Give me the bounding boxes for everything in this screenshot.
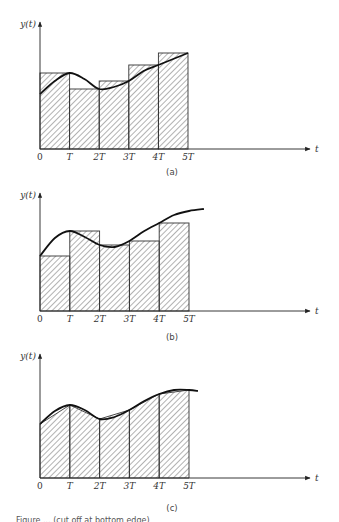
x-tick-label: T — [67, 152, 74, 162]
x-tick-label: 0 — [37, 481, 43, 491]
x-tick-label: 4T — [152, 152, 166, 162]
panel-b: y(t)t0T2T3T4T5T — [19, 190, 319, 324]
hatched-rectangle — [99, 81, 129, 149]
panel-a: y(t)t0T2T3T4T5T — [19, 19, 319, 162]
x-axis-label: t — [315, 144, 319, 154]
hatched-trapezoid — [100, 410, 130, 478]
y-axis-label: y(t) — [19, 351, 36, 361]
hatched-rectangle — [40, 73, 70, 149]
panel-c: y(t)t0T2T3T4T5T — [19, 351, 319, 491]
x-tick-label: 2T — [93, 481, 107, 491]
x-tick-label: T — [67, 314, 74, 324]
hatched-rectangle — [158, 53, 188, 149]
hatched-rectangle — [129, 241, 159, 311]
x-tick-label: 2T — [92, 152, 106, 162]
y-axis-label: y(t) — [19, 19, 36, 29]
x-tick-label: 3T — [124, 481, 137, 491]
panel-a-label: (a) — [166, 167, 178, 177]
x-tick-label: 5T — [182, 152, 195, 162]
hatched-rectangle — [40, 256, 70, 311]
x-tick-label: 5T — [183, 481, 196, 491]
hatched-trapezoid — [40, 405, 70, 478]
x-tick-label: 4T — [152, 314, 166, 324]
figure: y(t)t0T2T3T4T5T (a) y(t)t0T2T3T4T5T (b) … — [0, 0, 339, 522]
hatched-trapezoid — [159, 390, 189, 478]
x-axis-label: t — [315, 306, 319, 316]
x-tick-label: 3T — [124, 314, 137, 324]
hatched-rectangle — [100, 245, 130, 311]
x-tick-label: 0 — [37, 314, 43, 324]
hatched-rectangle — [70, 89, 100, 149]
x-tick-label: 4T — [152, 481, 166, 491]
x-axis-label: t — [315, 473, 319, 483]
figure-caption: Figure ... (cut off at bottom edge) — [16, 516, 336, 522]
x-tick-label: 2T — [93, 314, 107, 324]
y-axis-label: y(t) — [19, 190, 36, 200]
panel-c-label: (c) — [166, 503, 177, 513]
hatched-rectangle — [159, 223, 189, 311]
panel-b-label: (b) — [166, 332, 178, 342]
x-tick-label: 0 — [37, 152, 43, 162]
x-tick-label: 3T — [123, 152, 136, 162]
x-tick-label: 5T — [183, 314, 196, 324]
x-tick-label: T — [67, 481, 74, 491]
